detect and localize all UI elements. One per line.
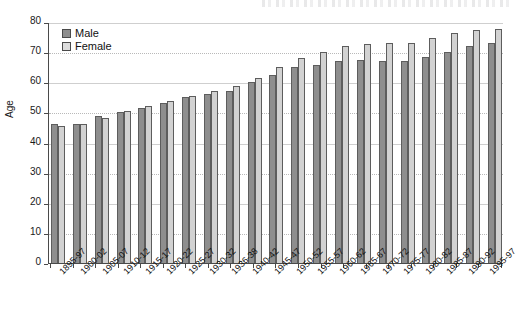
bar-male	[138, 108, 145, 263]
y-tick-label: 50	[30, 106, 41, 116]
y-tick-label: 20	[30, 197, 41, 207]
y-axis-ticks: 80706050403020100	[0, 23, 48, 264]
bar-female	[386, 43, 393, 264]
y-tick-label: 60	[30, 76, 41, 86]
bar-female	[58, 126, 65, 263]
y-tick-label: 80	[30, 16, 41, 26]
bar-male	[444, 52, 451, 263]
x-tick-mark	[388, 264, 389, 268]
x-tick-mark	[343, 264, 344, 268]
bar-group	[51, 23, 65, 263]
x-tick-mark	[411, 264, 412, 268]
plot-area	[48, 23, 503, 264]
bar-group	[466, 23, 480, 263]
y-tick-label: 40	[30, 137, 41, 147]
bar-male	[269, 75, 276, 263]
bar-group	[160, 23, 174, 263]
bar-group	[335, 23, 349, 263]
bar-group	[138, 23, 152, 263]
bar-group	[357, 23, 371, 263]
bar-male	[182, 97, 189, 263]
bar-female	[342, 46, 349, 263]
bar-male	[51, 124, 58, 263]
x-tick-mark	[501, 264, 502, 268]
chart-legend: Male Female	[62, 27, 112, 52]
bar-female	[364, 44, 371, 263]
bar-female	[495, 29, 502, 263]
bar-male	[160, 103, 167, 263]
x-tick-mark	[50, 264, 51, 268]
bar-male	[291, 67, 298, 263]
bar-male	[488, 43, 495, 263]
x-tick-mark	[230, 264, 231, 268]
legend-label-male: Male	[75, 28, 99, 39]
bar-female	[211, 91, 218, 263]
bar-group	[248, 23, 262, 263]
bar-group	[95, 23, 109, 263]
legend-label-female: Female	[75, 41, 112, 52]
bar-female	[429, 38, 436, 263]
bar-male	[401, 61, 408, 263]
x-tick-mark	[140, 264, 141, 268]
x-tick-mark	[433, 264, 434, 268]
bar-female	[255, 78, 262, 263]
bar-male	[357, 60, 364, 263]
legend-swatch-male-icon	[62, 29, 71, 38]
bar-male	[73, 124, 80, 263]
bar-groups	[49, 23, 503, 263]
bar-female	[145, 106, 152, 263]
x-tick-mark	[366, 264, 367, 268]
bar-group	[269, 23, 283, 263]
bar-group	[204, 23, 218, 263]
bar-female	[276, 67, 283, 263]
bar-male	[422, 57, 429, 263]
x-tick-mark	[208, 264, 209, 268]
bar-group	[379, 23, 393, 263]
x-tick-mark	[185, 264, 186, 268]
page-scan-artifact	[262, 0, 510, 7]
bar-group	[182, 23, 196, 263]
y-tick-label: 0	[35, 257, 41, 267]
bar-group	[444, 23, 458, 263]
bar-male	[248, 82, 255, 263]
bar-female	[124, 111, 131, 263]
bar-group	[401, 23, 415, 263]
bar-female	[80, 124, 87, 263]
bar-female	[473, 30, 480, 263]
x-axis-ticks	[48, 264, 503, 269]
bar-group	[117, 23, 131, 263]
legend-item-male: Male	[62, 27, 112, 39]
x-tick-mark	[163, 264, 164, 268]
bar-female	[320, 52, 327, 263]
bar-female	[167, 101, 174, 263]
x-tick-mark	[478, 264, 479, 268]
x-tick-mark	[253, 264, 254, 268]
x-tick-mark	[321, 264, 322, 268]
bar-female	[189, 96, 196, 263]
x-tick-mark	[118, 264, 119, 268]
bar-male	[204, 94, 211, 263]
bar-female	[408, 43, 415, 264]
x-tick-mark	[95, 264, 96, 268]
bar-male	[117, 112, 124, 263]
bar-male	[466, 46, 473, 263]
y-tick-label: 30	[30, 167, 41, 177]
bar-group	[422, 23, 436, 263]
bar-group	[226, 23, 240, 263]
bar-group	[73, 23, 87, 263]
legend-swatch-female-icon	[62, 42, 71, 51]
bar-female	[451, 33, 458, 263]
bar-female	[102, 118, 109, 264]
bar-male	[313, 65, 320, 263]
bar-male	[379, 61, 386, 263]
x-tick-mark	[73, 264, 74, 268]
bar-male	[226, 91, 233, 263]
bar-group	[291, 23, 305, 263]
bar-group	[488, 23, 502, 263]
bar-group	[313, 23, 327, 263]
y-tick-label: 70	[30, 46, 41, 56]
legend-item-female: Female	[62, 40, 112, 52]
bar-male	[95, 116, 102, 263]
bar-female	[233, 86, 240, 263]
